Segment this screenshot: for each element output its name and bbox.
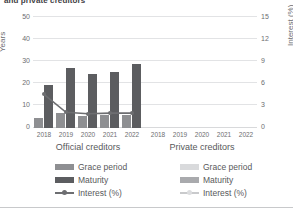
y-tick-left: 0 <box>26 123 30 130</box>
y-tick-right: 15 <box>261 13 269 20</box>
x-tick-2018: 2018 <box>147 130 170 139</box>
y-tick-left: 50 <box>22 13 30 20</box>
legend-label-grace-period: Grace period <box>203 162 252 172</box>
bar-group-private <box>147 16 257 128</box>
legend-label-grace-period: Grace period <box>78 162 127 172</box>
legend-item-maturity[interactable]: Maturity <box>55 173 127 186</box>
y-tick-left: 10 <box>22 101 30 108</box>
legend-item-interest[interactable]: Interest (%) <box>180 186 252 199</box>
group-caption-official: Official creditors <box>33 142 143 152</box>
legend-swatch-interest-line-icon <box>180 190 199 196</box>
x-tick-2021: 2021 <box>99 130 122 139</box>
bar-group-official <box>33 16 143 128</box>
footer-rule <box>0 207 293 208</box>
group-caption-private: Private creditors <box>147 142 257 152</box>
y-tick-right: 3 <box>261 101 265 108</box>
y-tick-left: 20 <box>22 79 30 86</box>
legend-label-interest: Interest (%) <box>203 188 247 198</box>
legend-item-grace-period[interactable]: Grace period <box>55 160 127 173</box>
y-tick-left: 30 <box>22 57 30 64</box>
x-axis-ticks-private: 2018 2019 2020 2021 2022 <box>147 130 257 139</box>
y-axis-ticks-right: 15 12 9 6 3 0 <box>261 16 277 128</box>
legend-item-maturity[interactable]: Maturity <box>180 173 252 186</box>
legend-label-maturity: Maturity <box>78 175 108 185</box>
x-tick-2019: 2019 <box>169 130 192 139</box>
legend-swatch-maturity-icon <box>180 177 199 183</box>
x-tick-2018: 2018 <box>33 130 56 139</box>
chart-title: and private creditors <box>4 0 244 6</box>
legend-swatch-maturity-icon <box>55 177 74 183</box>
x-tick-2022: 2022 <box>235 130 258 139</box>
legend-private: Grace period Maturity Interest (%) <box>180 160 252 199</box>
legend-item-grace-period[interactable]: Grace period <box>180 160 252 173</box>
legend-label-interest: Interest (%) <box>78 188 122 198</box>
y-axis-title-left: Years <box>0 32 7 52</box>
y-axis-ticks-left: 50 40 30 20 10 0 <box>14 16 30 128</box>
y-tick-left: 40 <box>22 35 30 42</box>
x-tick-2022: 2022 <box>121 130 144 139</box>
y-axis-title-right: Interest (%) <box>286 5 293 46</box>
x-tick-2019: 2019 <box>55 130 78 139</box>
x-tick-2021: 2021 <box>213 130 236 139</box>
y-tick-right: 12 <box>261 35 269 42</box>
legend-swatch-grace-period-icon <box>180 164 199 170</box>
legend-swatch-grace-period-icon <box>55 164 74 170</box>
legend-swatch-interest-line-icon <box>55 190 74 196</box>
interest-marker-2020 <box>86 112 90 116</box>
x-axis-ticks-official: 2018 2019 2020 2021 2022 <box>33 130 143 139</box>
y-tick-right: 9 <box>261 57 265 64</box>
x-tick-2020: 2020 <box>191 130 214 139</box>
legend-item-interest[interactable]: Interest (%) <box>55 186 127 199</box>
y-tick-right: 6 <box>261 79 265 86</box>
y-tick-right: 0 <box>261 123 265 130</box>
legend-label-maturity: Maturity <box>203 175 233 185</box>
x-tick-2020: 2020 <box>77 130 100 139</box>
plot-area <box>33 16 257 128</box>
legend-official: Grace period Maturity Interest (%) <box>55 160 127 199</box>
